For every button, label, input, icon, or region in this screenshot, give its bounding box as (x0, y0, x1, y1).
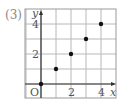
data-point (69, 52, 73, 56)
y-tick-4: 4 (32, 19, 39, 30)
y-axis-arrow-icon (39, 10, 43, 15)
data-point (84, 37, 88, 41)
data-point (99, 22, 103, 26)
x-axis-label: x (110, 87, 116, 98)
data-point (39, 82, 43, 86)
x-tick-4: 4 (98, 87, 105, 98)
origin-label: O (30, 87, 39, 98)
y-tick-2: 2 (32, 49, 39, 60)
data-point (54, 67, 58, 71)
x-tick-2: 2 (68, 87, 75, 98)
